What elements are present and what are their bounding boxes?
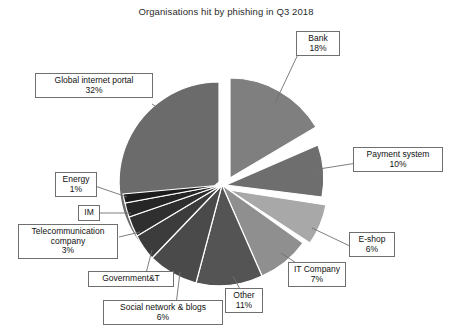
pie-label-it-company: IT Company 7% (288, 262, 346, 287)
pie-label-payment-system: Payment system 10% (353, 147, 443, 172)
pie-label-e-shop: E-shop 6% (349, 232, 395, 257)
pie-label-telecommunication-company: Telecommunication company 3% (18, 224, 118, 259)
pie-label-global-internet-portal: Global internet portal 32% (35, 73, 153, 98)
leader-line-bank (275, 50, 300, 103)
pie-label-other: Other 11% (225, 288, 263, 313)
pie-label-social-network-and-blogs: Social network & blogs 6% (103, 300, 223, 325)
pie-label-energy: Energy 1% (55, 172, 97, 197)
pie-label-im: IM (78, 205, 100, 221)
leader-line-e-shop (312, 228, 354, 248)
pie-label-government-and-t: Government&T (88, 271, 174, 287)
pie-label-bank: Bank 18% (296, 31, 340, 56)
pie-chart-figure: Organisations hit by phishing in Q3 2018 (0, 0, 452, 336)
pie-slices (119, 78, 326, 286)
